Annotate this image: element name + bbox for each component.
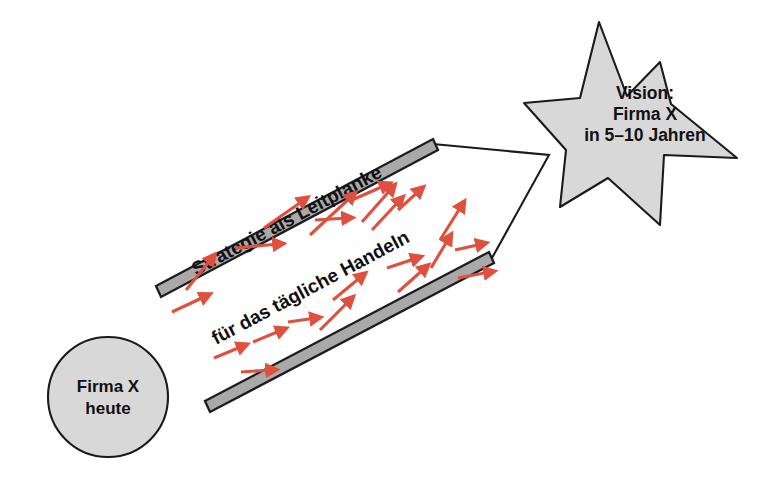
flow-arrow — [253, 330, 282, 342]
funnel-converging-lines — [433, 144, 549, 258]
flow-arrow — [387, 258, 417, 268]
diagram-canvas: Vision: Firma X in 5–10 Jahren Strategie… — [0, 0, 771, 481]
vision-star-line2: Firma X — [613, 104, 678, 124]
flow-arrow — [320, 300, 350, 330]
vision-star-line1: Vision: — [616, 83, 674, 103]
flow-arrow — [455, 244, 482, 250]
flow-arrow — [398, 190, 420, 210]
start-circle-line1: Firma X — [77, 377, 140, 396]
start-circle-line2: heute — [85, 399, 130, 418]
flow-arrow — [172, 296, 206, 312]
flow-arrow — [315, 218, 348, 220]
flow-arrow — [241, 370, 272, 372]
flow-arrow — [431, 238, 449, 268]
start-circle — [48, 337, 168, 457]
strategy-guardrail-diagram: Vision: Firma X in 5–10 Jahren Strategie… — [0, 0, 771, 481]
flow-arrow — [440, 205, 462, 240]
flow-arrow — [288, 318, 316, 322]
vision-star-line3: in 5–10 Jahren — [584, 125, 706, 145]
